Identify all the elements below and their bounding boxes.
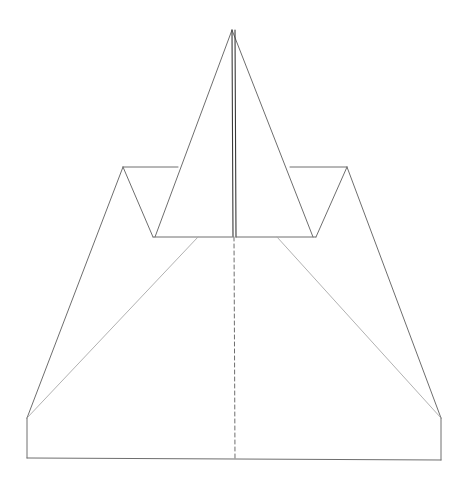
center-solid-line bbox=[232, 30, 233, 237]
center-solid-2-line bbox=[235, 30, 236, 237]
nose-right-line bbox=[232, 30, 313, 237]
diagram-svg bbox=[0, 0, 468, 486]
left-notch-diag-line bbox=[123, 167, 153, 237]
right-fold-diag-line bbox=[277, 237, 441, 418]
left-wing-outer-line bbox=[27, 167, 123, 418]
right-wing-outer-line bbox=[347, 167, 441, 418]
center-dashed-line bbox=[234, 237, 235, 460]
right-notch-diag-line bbox=[316, 167, 347, 237]
left-fold-diag-line bbox=[27, 237, 198, 418]
bottom-edge-line bbox=[27, 458, 441, 460]
paper-airplane-diagram bbox=[0, 0, 468, 486]
nose-left-line bbox=[155, 30, 232, 237]
